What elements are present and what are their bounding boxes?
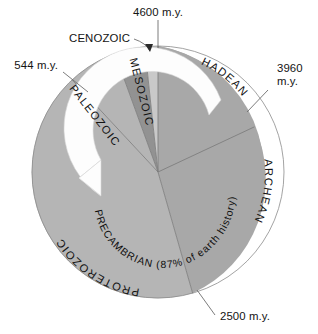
callout-2500: 2500 m.y. <box>220 310 270 322</box>
geologic-time-pie-chart: HADEAN ARCHEAN PROTEROZOIC PALEOZOIC MES… <box>0 0 318 334</box>
callout-3960-line2: m.y. <box>277 75 298 87</box>
callout-4600: 4600 m.y. <box>133 6 183 18</box>
callout-544: 544 m.y. <box>14 59 58 71</box>
callout-3960-line1: 3960 <box>277 62 303 74</box>
callout-cenozoic: CENOZOIC <box>69 32 130 44</box>
geologic-time-figure: HADEAN ARCHEAN PROTEROZOIC PALEOZOIC MES… <box>0 0 318 334</box>
